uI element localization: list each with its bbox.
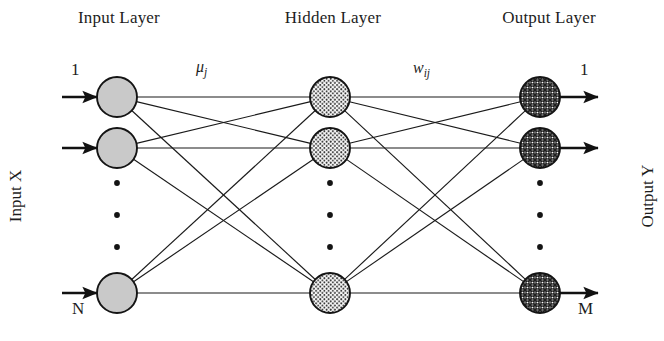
- ellipsis-dot: [327, 244, 333, 250]
- ellipsis-dot: [537, 244, 543, 250]
- edge-group-hidden-to-output: [345, 97, 526, 293]
- ellipsis-dot: [327, 180, 333, 186]
- network-canvas: [0, 0, 664, 341]
- neural-network-figure: Input Layer Hidden Layer Output Layer In…: [0, 0, 664, 341]
- ellipsis-dot: [114, 212, 120, 218]
- neuron-input-3: [97, 273, 137, 313]
- neuron-hidden-3: [310, 273, 350, 313]
- neuron-output-3: [520, 273, 560, 313]
- neuron-input-2: [97, 128, 137, 168]
- ellipsis-dot: [114, 244, 120, 250]
- ellipsis-dot: [537, 212, 543, 218]
- neuron-group: [97, 77, 560, 313]
- edge-group-input-to-hidden: [132, 97, 316, 293]
- neuron-input-1: [97, 77, 137, 117]
- io-arrow-group: [62, 97, 598, 293]
- neuron-hidden-1: [310, 77, 350, 117]
- ellipsis-dot: [537, 180, 543, 186]
- ellipsis-dot: [327, 212, 333, 218]
- neuron-hidden-2: [310, 128, 350, 168]
- neuron-output-1: [520, 77, 560, 117]
- neuron-output-2: [520, 128, 560, 168]
- ellipsis-dot: [114, 180, 120, 186]
